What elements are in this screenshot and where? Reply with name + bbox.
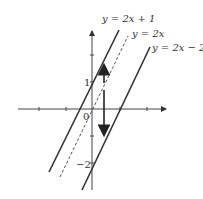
label-y-2x: y = 2x xyxy=(131,28,165,39)
tick-label-origin: 0 xyxy=(83,111,89,122)
line-y-2x xyxy=(60,36,128,177)
label-y-2x-minus-2: y = 2x − 2 xyxy=(151,42,203,53)
line-y-2x-plus-1 xyxy=(49,30,119,172)
coordinate-diagram: y = 2x + 1 y = 2x y = 2x − 2 1 0 −2 xyxy=(0,0,203,199)
tick-label-1: 1 xyxy=(84,77,90,88)
label-y-2x-plus-1: y = 2x + 1 xyxy=(101,13,156,24)
tick-label-minus-2: −2 xyxy=(76,159,91,170)
